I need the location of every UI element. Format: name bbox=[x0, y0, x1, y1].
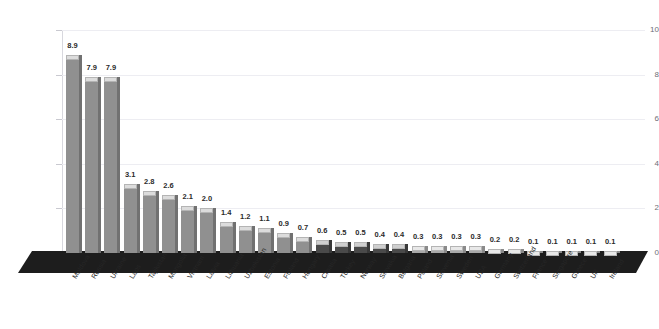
x-axis-category-label: Russia bbox=[90, 258, 107, 280]
x-axis-category-label: Estonia bbox=[263, 256, 281, 280]
x-axis-category-label: Bulgaria bbox=[397, 254, 417, 279]
x-axis-category-label: Slovenia bbox=[435, 253, 455, 279]
x-axis-category-label: Croatia bbox=[320, 257, 338, 280]
x-axis-category-label: Sweden bbox=[455, 255, 474, 280]
x-axis-category-label: Hungary bbox=[301, 254, 321, 280]
x-axis-category-label: Mongolia bbox=[167, 252, 188, 280]
x-axis-category-label: Finland bbox=[282, 257, 300, 280]
x-axis-category-label: Latvia bbox=[205, 260, 221, 280]
x-axis-category-label: Slovakia bbox=[378, 254, 398, 280]
x-axis-category-label: Ireland bbox=[608, 258, 625, 280]
x-axis-category-label: Vietnam bbox=[186, 254, 205, 279]
x-axis-category-label: Laos bbox=[128, 263, 142, 280]
bar-chart: 0246810 8.97.97.93.12.82.62.12.01.41.21.… bbox=[0, 0, 659, 329]
x-axis-category-label: France bbox=[531, 258, 548, 280]
x-axis-category-label: UK bbox=[589, 268, 600, 280]
x-axis-category-label: Norway bbox=[359, 256, 378, 280]
x-axis-category-label: Turkey bbox=[339, 258, 356, 280]
category-labels-layer: MoldovaRussiaUkraineLaosTajikistanMongol… bbox=[0, 0, 659, 329]
x-axis-category-label: Greece bbox=[570, 257, 588, 280]
x-axis-category-label: Ukraine bbox=[109, 256, 128, 280]
x-axis-category-label: Poland bbox=[416, 258, 433, 280]
x-axis-category-label: Tajikistan bbox=[147, 252, 168, 280]
x-axis-category-label: Moldova bbox=[71, 254, 91, 280]
x-axis-category-label: USA bbox=[474, 264, 488, 280]
